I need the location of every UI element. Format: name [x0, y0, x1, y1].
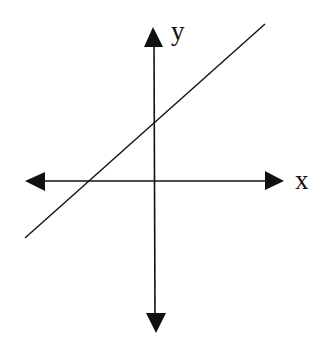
coordinate-plane: y x: [0, 0, 330, 344]
y-axis-label: y: [171, 16, 185, 46]
y-axis: [154, 42, 155, 318]
x-axis-left-arrow-icon: [25, 172, 45, 191]
x-axis-label: x: [295, 165, 309, 195]
y-axis-down-arrow-icon: [146, 313, 166, 333]
x-axis-right-arrow-icon: [265, 171, 284, 190]
y-axis-up-arrow-icon: [144, 27, 163, 47]
plotted-line: [25, 24, 265, 238]
